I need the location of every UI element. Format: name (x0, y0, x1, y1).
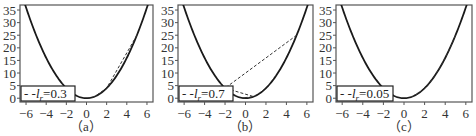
x-tick-label: 2 (263, 106, 270, 121)
y-tick-label: 35 (3, 3, 16, 18)
x-tick-label: −6 (335, 106, 349, 121)
parabola-curve (20, 0, 153, 98)
x-tick-label: 2 (103, 106, 110, 121)
panel-caption: （b） (229, 119, 262, 134)
chart-panel-b: 05101520253035−6−4−20246- -lr=0.7（b） (161, 0, 313, 134)
y-tick-label: 35 (161, 3, 174, 18)
chart-panel-a: 05101520253035−6−4−20246- -lr=0.3（a） (3, 0, 153, 134)
legend-label: - -lr=0.7 (182, 86, 225, 103)
descent-path (88, 35, 137, 98)
x-tick-label: 6 (144, 106, 151, 121)
x-tick-label: −4 (356, 106, 370, 121)
x-tick-label: 4 (283, 106, 290, 121)
x-tick-label: 6 (304, 106, 311, 121)
y-tick-label: 35 (319, 3, 332, 18)
panel-caption: （c） (388, 119, 420, 134)
x-tick-label: −4 (198, 106, 212, 121)
x-tick-label: 6 (463, 106, 470, 121)
x-tick-label: 4 (124, 106, 131, 121)
x-tick-label: −6 (19, 106, 33, 121)
x-tick-label: −6 (177, 106, 191, 121)
legend-label: - -lr=0.3 (24, 86, 67, 103)
x-tick-label: 2 (421, 106, 428, 121)
x-tick-label: −4 (39, 106, 53, 121)
x-tick-label: 4 (442, 106, 449, 121)
descent-path (225, 35, 297, 98)
descent-path (412, 35, 456, 97)
gradient-descent-figure: 05101520253035−6−4−20246- -lr=0.3（a）0510… (0, 0, 476, 136)
chart-panel-c: 05101520253035−6−4−20246- -lr=0.05（c） (319, 0, 472, 134)
parabola-curve (178, 0, 313, 98)
legend-label: - -lr=0.05 (340, 86, 389, 103)
panel-caption: （a） (70, 119, 102, 134)
parabola-curve (336, 0, 472, 98)
